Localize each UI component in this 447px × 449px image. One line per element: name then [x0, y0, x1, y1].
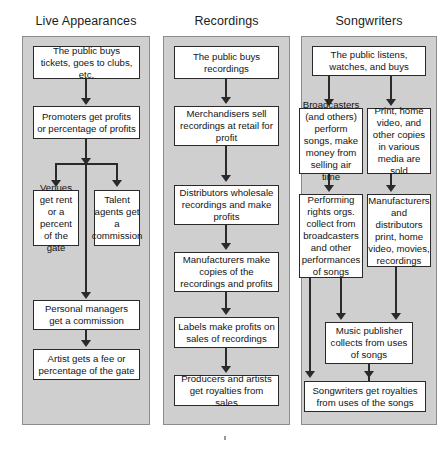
- node-sw-7[interactable]: Songwriters get royalties from uses of t…: [304, 381, 426, 412]
- node-la-4[interactable]: Talent agents get a commission: [94, 190, 140, 246]
- column-title-live-appearances: Live Appearances: [22, 14, 150, 28]
- arrowhead-sw2-sw4: [324, 185, 334, 192]
- node-rc-5[interactable]: Labels make profits on sales of recordin…: [174, 317, 279, 348]
- node-la-6[interactable]: Artist gets a fee or percentage of the g…: [33, 349, 140, 380]
- arrowhead-la2-la5: [81, 292, 91, 299]
- edge-sw5-sw6: [395, 267, 397, 318]
- arrowhead-rc4-rc5: [221, 308, 231, 315]
- arrowhead-rc2-rc3: [221, 175, 231, 182]
- arrowhead-sw4-sw6: [336, 313, 346, 320]
- edge-sw4-sw7-bypass: [309, 278, 311, 376]
- scan-artifact: [224, 436, 226, 440]
- arrowhead-la2-center: [81, 158, 91, 165]
- node-la-5[interactable]: Personal managers get a commission: [33, 300, 140, 330]
- node-sw-3[interactable]: Print, home video, and other copies in v…: [367, 108, 431, 174]
- arrowhead-la2-la4: [112, 180, 122, 187]
- node-sw-6[interactable]: Music publisher collects from uses of so…: [325, 322, 413, 364]
- node-sw-1[interactable]: The public listens, watches, and buys: [312, 46, 426, 76]
- node-sw-2[interactable]: Broadcasters (and others) perform songs,…: [299, 108, 363, 174]
- money-flow-diagram: Live Appearances The public buys tickets…: [0, 0, 447, 449]
- arrowhead-sw6-sw7: [364, 371, 374, 378]
- arrowhead-sw4-sw7: [305, 371, 315, 378]
- node-rc-4[interactable]: Manufacturers make copies of the recordi…: [174, 252, 279, 292]
- column-title-songwriters: Songwriters: [301, 14, 437, 28]
- arrowhead-rc1-rc2: [221, 97, 231, 104]
- node-la-2[interactable]: Promoters get profits or percentage of p…: [33, 106, 140, 139]
- node-la-3[interactable]: Venues get rent or a percent of the gate: [33, 190, 79, 246]
- edge-sw4-sw6: [340, 278, 342, 318]
- node-sw-5[interactable]: Manufacturers and distributors print, ho…: [367, 194, 431, 267]
- arrowhead-sw3-sw5: [386, 185, 396, 192]
- node-rc-1[interactable]: The public buys recordings: [174, 46, 279, 79]
- node-rc-2[interactable]: Merchandisers sell recordings at retail …: [174, 106, 279, 146]
- edge-la2-la5: [85, 165, 87, 296]
- arrowhead-la1-la2: [81, 98, 91, 105]
- node-rc-3[interactable]: Distributors wholesale recordings and ma…: [174, 185, 279, 225]
- arrowhead-rc3-rc4: [221, 243, 231, 250]
- node-rc-6[interactable]: Producers and artists get royalties from…: [174, 375, 279, 406]
- column-title-recordings: Recordings: [163, 14, 290, 28]
- arrowhead-sw5-sw6: [391, 313, 401, 320]
- node-sw-4[interactable]: Performing rights orgs. collect from bro…: [299, 194, 363, 278]
- node-la-1[interactable]: The public buys tickets, goes to clubs, …: [33, 46, 140, 79]
- arrowhead-la5-la6: [81, 340, 91, 347]
